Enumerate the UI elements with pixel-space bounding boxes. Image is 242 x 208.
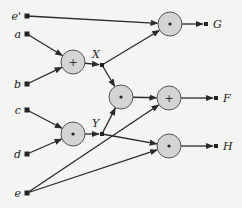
junction-label-Y: Y	[92, 117, 101, 130]
input-terminal-a	[25, 32, 30, 37]
edge-e_prime-mulG	[27, 16, 158, 23]
input-terminal-d	[25, 152, 30, 157]
dot-icon	[167, 144, 170, 147]
edge-c-mul1	[27, 110, 62, 128]
edge-Y-mulC	[102, 108, 115, 134]
input-label-d: d	[14, 148, 21, 161]
input-label-a: a	[14, 28, 21, 41]
output-label-G: G	[213, 18, 222, 31]
output-label-H: H	[222, 140, 233, 153]
input-terminal-e	[25, 191, 30, 196]
input-label-e_prime: e'	[11, 10, 21, 23]
junction-X	[100, 63, 104, 67]
output-label-F: F	[222, 92, 231, 105]
input-label-b: b	[14, 78, 21, 91]
edge-e-mulH	[27, 150, 157, 193]
junction-label-X: X	[91, 48, 101, 61]
dot-icon	[119, 95, 122, 98]
input-label-e: e	[14, 187, 21, 200]
plus-icon: +	[164, 92, 173, 105]
circuit-diagram: e'abcde++XYGFH	[0, 0, 242, 208]
plus-icon: +	[68, 56, 77, 69]
edge-X-mulG	[102, 30, 159, 65]
edge-b-add1	[27, 67, 62, 84]
input-label-c: c	[15, 104, 21, 117]
junction-Y	[100, 132, 104, 136]
input-terminal-c	[25, 108, 30, 113]
edge-X-mulC	[102, 65, 115, 86]
nodes: e'abcde++XYGFH	[11, 10, 233, 200]
output-terminal-G	[204, 22, 208, 26]
edge-d-mul1	[27, 139, 62, 154]
output-terminal-H	[214, 144, 218, 148]
dot-icon	[168, 22, 171, 25]
dot-icon	[71, 132, 74, 135]
input-terminal-e_prime	[25, 14, 30, 19]
edge-a-add1	[27, 34, 62, 56]
input-terminal-b	[25, 82, 30, 87]
output-terminal-F	[214, 96, 218, 100]
edge-Y-mulH	[102, 134, 157, 144]
edge-add1-X	[85, 63, 99, 64]
